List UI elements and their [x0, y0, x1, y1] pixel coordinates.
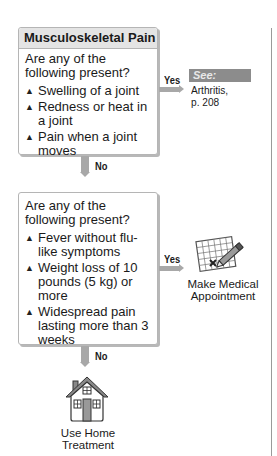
list-item: ▲Redness or heat in a joint [25, 100, 153, 128]
house-icon [64, 375, 110, 423]
flowchart-title: Musculoskeletal Pain [19, 28, 157, 49]
triangle-bullet-icon: ▲ [25, 262, 34, 274]
list-item: ▲Fever without flu-like symptoms [25, 231, 153, 259]
no-arrow-2 [81, 346, 89, 362]
question-box-1: Musculoskeletal Pain Are any of the foll… [18, 27, 158, 155]
no-label-1: No [95, 160, 107, 172]
see-reference[interactable]: Arthritis, p. 208 [191, 84, 228, 108]
reference-topic: Arthritis, [191, 84, 228, 96]
yes-label-1: Yes [164, 74, 180, 86]
calendar-pencil-icon [194, 233, 250, 277]
question-2-text: Are any of the following present? [19, 193, 157, 229]
see-tag: See: [189, 69, 251, 82]
list-item: ▲Swelling of a joint [25, 84, 153, 98]
reference-page: p. 208 [191, 96, 228, 108]
no-arrow-1 [81, 156, 89, 172]
symptom-list-2: ▲Fever without flu-like symptoms ▲Weight… [19, 231, 157, 347]
yes-arrow-1 [159, 87, 179, 92]
triangle-bullet-icon: ▲ [25, 232, 34, 244]
list-item: ▲Weight loss of 10 pounds (5 kg) or more [25, 261, 153, 303]
question-box-2: Are any of the following present? ▲Fever… [18, 192, 158, 345]
page-divider-line [271, 28, 272, 456]
triangle-bullet-icon: ▲ [25, 306, 34, 318]
triangle-bullet-icon: ▲ [25, 101, 34, 113]
list-item: ▲Widespread pain lasting more than 3 wee… [25, 305, 153, 347]
no-label-2: No [95, 350, 107, 362]
symptom-list-1: ▲Swelling of a joint ▲Redness or heat in… [19, 84, 157, 158]
triangle-bullet-icon: ▲ [25, 85, 34, 97]
home-treatment-label: Use Home Treatment [56, 427, 120, 451]
triangle-bullet-icon: ▲ [25, 131, 34, 143]
make-appointment-label: Make Medical Appointment [183, 278, 263, 302]
question-1-text: Are any of the following present? [19, 49, 157, 82]
list-item: ▲Pain when a joint moves [25, 130, 153, 158]
yes-label-2: Yes [164, 253, 180, 265]
yes-arrow-2 [159, 266, 179, 271]
